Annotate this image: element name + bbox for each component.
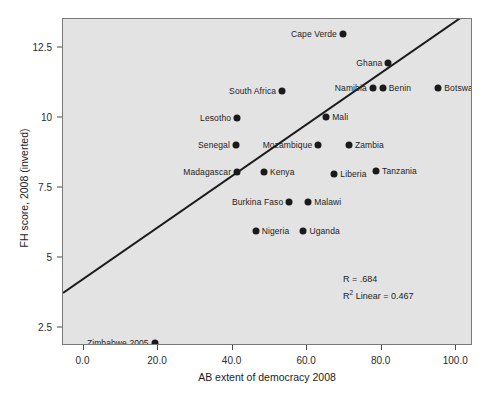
data-point [232,142,239,149]
data-point [260,169,267,176]
data-point-label: Liberia [340,169,366,179]
data-point [435,84,442,91]
data-point-label: Botswana [444,83,472,93]
correlation-annotation: R = .684 R2 Linear = 0.467 [343,273,413,303]
x-tick-mark [157,345,158,350]
data-point [252,227,259,234]
x-tick-label: 40.0 [222,355,241,366]
y-tick-mark [57,187,62,188]
y-tick-mark [57,256,62,257]
x-tick-mark [455,345,456,350]
y-tick-label: 2.5 [10,321,52,332]
data-point [234,115,241,122]
data-point-label: Namibia [335,83,367,93]
data-point-label: South Africa [229,86,276,96]
data-point [305,198,312,205]
data-point [279,88,286,95]
data-point-label: Benin [389,83,411,93]
data-point [373,168,380,175]
data-point-label: Senegal [198,140,230,150]
x-tick-label: 80.0 [371,355,390,366]
data-point-label: Ghana [356,58,382,68]
data-point [369,84,376,91]
x-tick-label: 100.0 [443,355,468,366]
x-tick-mark [232,345,233,350]
data-point-label: Mozambique [263,140,313,150]
data-point-label: Malawi [314,197,341,207]
data-point-label: Lesotho [200,113,231,123]
x-tick-mark [381,345,382,350]
x-axis-title: AB extent of democracy 2008 [62,371,472,383]
r-value-text: R = .684 [343,273,413,286]
data-point [339,30,346,37]
data-point-label: Cape Verde [291,29,337,39]
data-point-label: Zimbabwe 2005 [87,338,149,345]
x-tick-mark [83,345,84,350]
data-point-label: Tanzania [382,166,417,176]
data-point [315,142,322,149]
data-point [286,198,293,205]
y-tick-label: 5 [10,251,52,262]
data-point [323,114,330,121]
x-tick-label: 60.0 [296,355,315,366]
data-point-label: Kenya [270,167,295,177]
data-point-label: Zambia [355,140,384,150]
x-tick-label: 0.0 [76,355,90,366]
data-point [385,59,392,66]
data-point-label: Uganda [309,226,339,236]
y-tick-mark [57,47,62,48]
x-tick-mark [306,345,307,350]
data-point-label: Nigeria [262,226,290,236]
data-point [345,142,352,149]
y-tick-mark [57,326,62,327]
r-squared-text: R2 Linear = 0.467 [343,286,413,303]
data-point [331,170,338,177]
data-point [300,227,307,234]
x-tick-label: 20.0 [147,355,166,366]
data-point-label: Mali [332,112,348,122]
scatter-plot-chart: Cape VerdeGhanaSouth AfricaNamibiaBeninB… [0,0,492,396]
data-point [379,84,386,91]
data-point [234,169,241,176]
y-tick-mark [57,117,62,118]
y-tick-label: 7.5 [10,182,52,193]
data-point-label: Burkina Faso [232,197,283,207]
plot-area: Cape VerdeGhanaSouth AfricaNamibiaBeninB… [62,18,472,345]
y-axis-title: FH score, 2008 (inverted) [18,98,30,278]
data-point-label: Madagascar [183,167,231,177]
y-tick-label: 12.5 [10,42,52,53]
y-tick-label: 10 [10,112,52,123]
